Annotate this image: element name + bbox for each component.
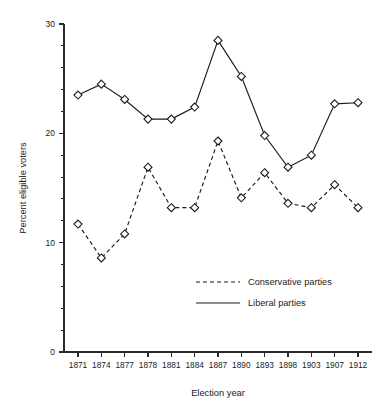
- legend-label-conservative: Conservative parties: [248, 277, 332, 287]
- x-tick-label: 1912: [349, 360, 368, 370]
- x-tick-label: 1887: [209, 360, 228, 370]
- data-point-marker: [214, 36, 222, 44]
- data-point-marker: [354, 99, 362, 107]
- data-point-marker: [214, 137, 222, 145]
- x-tick-label: 1907: [325, 360, 344, 370]
- series-conservative: [74, 137, 362, 262]
- x-tick-label: 1878: [139, 360, 158, 370]
- y-axis-ticks: 0102030: [46, 19, 64, 357]
- chart-container: 0102030187118741877187818811884188718901…: [0, 0, 389, 415]
- legend: Conservative partiesLiberal parties: [196, 277, 332, 308]
- y-tick-label: 30: [46, 19, 56, 29]
- data-point-marker: [144, 163, 152, 171]
- data-point-marker: [237, 72, 245, 80]
- data-point-marker: [74, 91, 82, 99]
- y-tick-label: 10: [46, 238, 56, 248]
- x-tick-label: 1903: [302, 360, 321, 370]
- x-tick-label: 1884: [185, 360, 204, 370]
- data-point-marker: [331, 100, 339, 108]
- x-tick-label: 1871: [69, 360, 88, 370]
- data-point-marker: [97, 80, 105, 88]
- data-point-marker: [284, 163, 292, 171]
- data-point-marker: [307, 204, 315, 212]
- line-chart: 0102030187118741877187818811884188718901…: [0, 0, 389, 415]
- x-axis-title: Election year: [191, 388, 245, 398]
- data-point-marker: [261, 132, 269, 140]
- series-line: [78, 40, 358, 167]
- series-liberal: [74, 36, 362, 171]
- data-point-marker: [191, 204, 199, 212]
- data-point-marker: [74, 220, 82, 228]
- x-tick-label: 1881: [162, 360, 181, 370]
- series-line: [78, 141, 358, 258]
- x-tick-label: 1890: [232, 360, 251, 370]
- legend-label-liberal: Liberal parties: [248, 298, 306, 308]
- data-point-marker: [167, 204, 175, 212]
- x-tick-label: 1898: [279, 360, 298, 370]
- x-tick-label: 1874: [92, 360, 111, 370]
- data-point-marker: [167, 115, 175, 123]
- x-tick-label: 1877: [115, 360, 134, 370]
- data-point-marker: [307, 151, 315, 159]
- data-point-marker: [191, 103, 199, 111]
- y-tick-label: 0: [50, 347, 55, 357]
- x-axis-ticks: 1871187418771878188118841887189018931898…: [69, 352, 368, 370]
- y-axis-title: Percent eligible voters: [18, 142, 28, 234]
- x-tick-label: 1893: [255, 360, 274, 370]
- y-tick-label: 20: [46, 128, 56, 138]
